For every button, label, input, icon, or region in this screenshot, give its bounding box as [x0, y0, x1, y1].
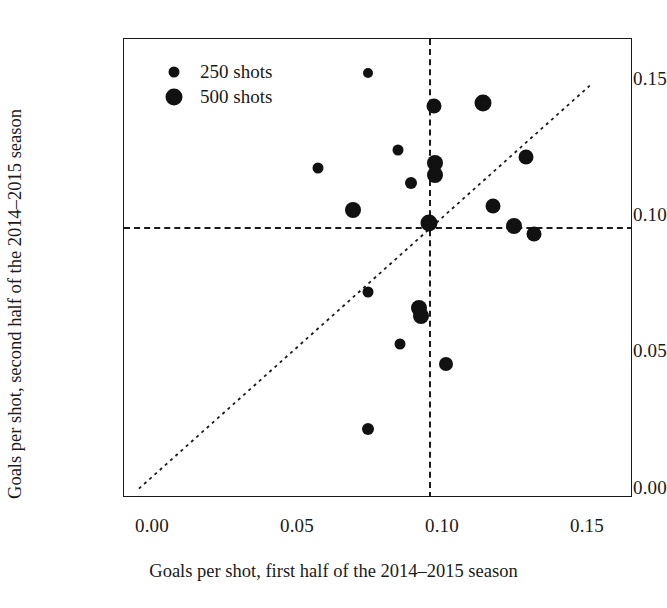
data-point	[485, 199, 500, 214]
plot-frame: 250 shots 500 shots	[123, 38, 632, 497]
x-tick-label-2: 0.10	[402, 515, 482, 537]
legend-entry-500-shots: 500 shots	[174, 84, 394, 109]
data-point	[426, 98, 441, 113]
data-point	[427, 167, 443, 183]
x-axis-label: Goals per shot, first half of the 2014–2…	[0, 561, 667, 582]
data-point	[527, 226, 542, 241]
data-point	[345, 202, 361, 218]
data-point	[362, 286, 373, 297]
data-point	[413, 308, 429, 324]
data-point	[405, 177, 417, 189]
data-point	[474, 94, 491, 111]
data-point	[362, 423, 374, 435]
legend: 250 shots 500 shots	[174, 59, 394, 109]
data-point	[421, 214, 438, 231]
data-point	[395, 339, 406, 350]
legend-marker-small-dot	[169, 66, 180, 77]
mean-horizontal-reference-line	[124, 227, 631, 229]
legend-label-250-shots: 250 shots	[200, 61, 272, 83]
data-point	[506, 218, 522, 234]
legend-label-500-shots: 500 shots	[200, 86, 272, 108]
x-tick-label-3: 0.15	[547, 515, 627, 537]
x-tick-label-0: 0.00	[112, 515, 192, 537]
legend-entry-250-shots: 250 shots	[174, 59, 394, 84]
x-tick-label-1: 0.05	[257, 515, 337, 537]
data-point	[439, 357, 453, 371]
scatter-plot-figure: Goals per shot, second half of the 2014–…	[0, 0, 667, 608]
legend-marker-large-dot	[166, 88, 183, 105]
data-point	[313, 162, 324, 173]
data-point	[519, 149, 534, 164]
y-axis-label: Goals per shot, second half of the 2014–…	[0, 0, 30, 608]
data-point	[393, 145, 404, 156]
